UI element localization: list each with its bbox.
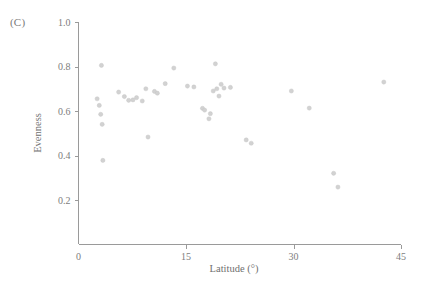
data-point bbox=[134, 96, 138, 100]
y-axis-title: Evenness bbox=[32, 113, 43, 153]
data-point bbox=[185, 84, 189, 88]
data-point bbox=[127, 98, 131, 102]
data-point bbox=[140, 99, 144, 103]
axes-group bbox=[79, 22, 402, 245]
data-point bbox=[244, 138, 248, 142]
x-tick-label: 30 bbox=[289, 251, 299, 262]
scatter-plot-figure: (C) 0.20.40.60.81.0 0153045 Latitude (°)… bbox=[0, 0, 426, 289]
data-point bbox=[95, 97, 99, 101]
data-point bbox=[203, 108, 207, 112]
data-point bbox=[144, 87, 148, 91]
data-point bbox=[217, 94, 221, 98]
y-tick-label: 1.0 bbox=[58, 17, 71, 28]
data-point bbox=[208, 112, 212, 116]
data-point bbox=[222, 86, 226, 90]
x-axis-title: Latitude (°) bbox=[210, 263, 259, 275]
data-point bbox=[332, 171, 336, 175]
y-tick-label: 0.2 bbox=[58, 195, 71, 206]
data-point bbox=[146, 135, 150, 139]
data-point bbox=[336, 185, 340, 189]
y-tick-label: 0.4 bbox=[58, 150, 71, 161]
data-point bbox=[219, 82, 223, 86]
y-tick-label: 0.8 bbox=[58, 61, 71, 72]
data-point bbox=[307, 106, 311, 110]
x-tick-label: 0 bbox=[76, 251, 81, 262]
data-point bbox=[192, 85, 196, 89]
data-point bbox=[215, 87, 219, 91]
plot-canvas: 0.20.40.60.81.0 0153045 Latitude (°) Eve… bbox=[0, 0, 426, 289]
data-point bbox=[99, 63, 103, 67]
data-point bbox=[207, 117, 211, 121]
data-point bbox=[155, 91, 159, 95]
data-point bbox=[249, 141, 253, 145]
data-point bbox=[172, 66, 176, 70]
data-point bbox=[100, 122, 104, 126]
data-point bbox=[122, 94, 126, 98]
x-axis-ticks: 0153045 bbox=[76, 245, 406, 263]
y-axis-ticks: 0.20.40.60.81.0 bbox=[58, 17, 79, 206]
data-point bbox=[97, 103, 101, 107]
data-point bbox=[99, 112, 103, 116]
y-tick-label: 0.6 bbox=[58, 106, 71, 117]
x-tick-label: 45 bbox=[396, 251, 406, 262]
data-points-layer bbox=[95, 62, 386, 189]
data-point bbox=[163, 82, 167, 86]
data-point bbox=[117, 90, 121, 94]
data-point bbox=[213, 62, 217, 66]
x-tick-label: 15 bbox=[181, 251, 191, 262]
data-point bbox=[228, 85, 232, 89]
data-point bbox=[382, 80, 386, 84]
data-point bbox=[289, 89, 293, 93]
data-point bbox=[101, 158, 105, 162]
